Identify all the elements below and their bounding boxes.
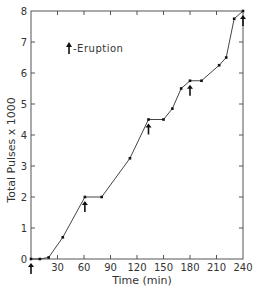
legend-label: -Eruption [73,43,123,54]
data-point [100,196,103,199]
eruption-arrow-icon [28,263,34,274]
data-point [180,87,183,90]
eruption-arrow-icon [145,124,151,135]
y-tick-label: 1 [21,223,27,234]
x-tick-label: 210 [207,262,226,273]
data-point [39,258,42,261]
x-tick-label: 60 [78,262,91,273]
eruption-arrow-icon [240,15,246,26]
data-point [147,118,150,121]
x-tick-label: 180 [180,262,199,273]
legend: -Eruption [66,42,123,54]
y-tick-label: 6 [21,68,27,79]
axis-ticks: 306090120150180210240012345678 [21,6,253,273]
x-tick-label: 150 [154,262,173,273]
data-point [47,256,50,259]
data-point [62,236,65,239]
y-tick-label: 0 [21,254,27,265]
x-tick-label: 120 [127,262,146,273]
y-tick-label: 4 [21,130,27,141]
data-point [218,64,221,67]
data-series [30,10,245,261]
y-tick-label: 8 [21,6,27,17]
data-point [171,107,174,110]
data-point [30,258,33,261]
y-tick-label: 7 [21,37,27,48]
x-tick-label: 240 [233,262,252,273]
y-tick-label: 5 [21,99,27,110]
eruption-arrow-icon [82,201,88,212]
data-point [129,157,132,160]
eruption-arrow-icon [187,85,193,96]
y-tick-label: 3 [21,161,27,172]
data-point [162,118,165,121]
data-point [233,17,236,20]
data-point [189,79,192,82]
y-axis-title: Total Pulses x 1000 [5,97,18,203]
x-tick-label: 90 [104,262,117,273]
data-point [84,196,87,199]
arrow-up-icon [66,42,72,54]
y-tick-label: 2 [21,192,27,203]
x-axis-title: Time (min) [111,274,172,287]
pulses-chart: 306090120150180210240012345678 -Eruption… [0,0,253,291]
data-point [200,79,203,82]
plot-axes [31,11,243,259]
data-point [242,10,245,13]
x-tick-label: 30 [51,262,64,273]
series-line [31,11,243,259]
data-point [225,56,228,59]
